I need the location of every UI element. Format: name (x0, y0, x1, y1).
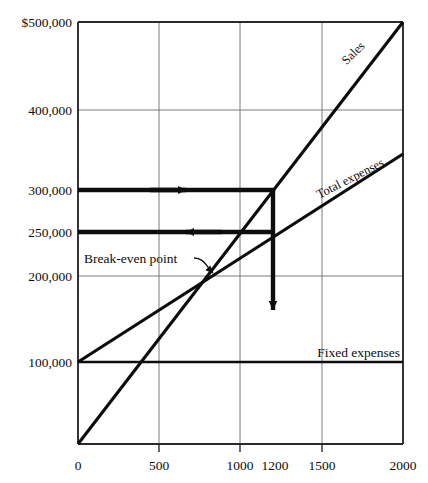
y-tick-label-400000: 400,000 (28, 103, 72, 118)
chart-canvas: $500,000 400,000 300,000 250,000 200,000… (0, 0, 428, 483)
series-label-fixed-expenses: Fixed expenses (317, 345, 400, 360)
y-tick-label-500000: $500,000 (21, 15, 72, 30)
y-tick-label-300000: 300,000 (28, 183, 72, 198)
x-axis-tick-labels: 0 500 1000 1200 1500 2000 (75, 458, 417, 473)
y-tick-label-200000: 200,000 (28, 269, 72, 284)
x-tick-label-1000: 1000 (227, 458, 254, 473)
y-axis-tick-labels: $500,000 400,000 300,000 250,000 200,000… (21, 15, 72, 370)
y-tick-label-250000: 250,000 (28, 225, 72, 240)
break-even-chart: $500,000 400,000 300,000 250,000 200,000… (0, 0, 428, 483)
annotation-label-break-even-point: Break-even point (84, 251, 178, 266)
x-tick-label-0: 0 (75, 458, 82, 473)
x-tick-label-2000: 2000 (390, 458, 417, 473)
x-tick-marks (159, 444, 322, 452)
x-tick-label-1200: 1200 (262, 458, 289, 473)
x-tick-label-500: 500 (149, 458, 170, 473)
y-tick-label-100000: 100,000 (28, 355, 72, 370)
x-tick-label-1500: 1500 (309, 458, 336, 473)
